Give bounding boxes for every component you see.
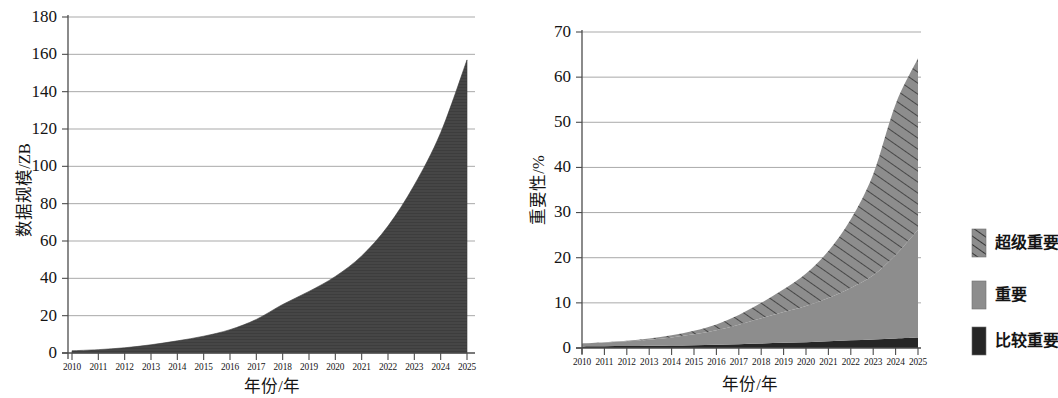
y-tick-label: 100 — [32, 156, 58, 175]
x-tick-label: 2015 — [685, 357, 704, 367]
x-tick-label: 2017 — [730, 357, 749, 367]
chart-panel-data-scale: 020406080100120140160180 201020112012201… — [0, 0, 500, 398]
area-series-group — [72, 60, 467, 353]
x-tick-label: 2013 — [640, 357, 659, 367]
y-tick-label: 30 — [554, 202, 571, 221]
stacked-area-series-group — [582, 58, 918, 348]
x-tick-label: 2024 — [432, 362, 451, 372]
x-tick-label: 2012 — [618, 357, 637, 367]
x-tick-label: 2013 — [142, 362, 161, 372]
y-tick-label: 50 — [554, 112, 571, 131]
legend-swatch-fairly-important — [972, 327, 986, 355]
x-tick-label: 2015 — [195, 362, 214, 372]
legend-label: 比较重要 — [995, 331, 1058, 349]
y-tick-labels-group: 010203040506070 — [554, 22, 571, 357]
x-axis-title: 年份/年 — [722, 375, 778, 394]
figure-root: 020406080100120140160180 201020112012201… — [0, 0, 1058, 398]
x-tick-label: 2014 — [168, 362, 187, 372]
x-tick-label: 2012 — [116, 362, 135, 372]
x-tick-label: 2017 — [247, 362, 266, 372]
y-tick-label: 40 — [554, 157, 571, 176]
legend-label: 超级重要 — [994, 233, 1058, 251]
x-tick-label: 2025 — [458, 362, 477, 372]
legend-label: 重要 — [995, 285, 1027, 303]
y-tick-label: 140 — [32, 82, 58, 101]
x-tick-label: 2014 — [662, 357, 681, 367]
y-tick-label: 180 — [32, 7, 58, 26]
y-tick-label: 70 — [554, 22, 571, 41]
x-tick-label: 2021 — [353, 362, 372, 372]
x-tick-label: 2022 — [379, 362, 398, 372]
x-tick-label: 2020 — [797, 357, 816, 367]
x-tick-label: 2025 — [909, 357, 928, 367]
y-tick-label: 60 — [40, 231, 57, 250]
y-tick-label: 60 — [554, 67, 571, 86]
y-tick-label: 0 — [563, 338, 572, 357]
x-tick-labels-group: 2010201120122013201420152016201720182019… — [573, 357, 928, 367]
x-tick-label: 2018 — [752, 357, 771, 367]
x-tick-label: 2016 — [707, 357, 726, 367]
x-tick-label: 2011 — [89, 362, 107, 372]
x-axis-title: 年份/年 — [244, 377, 300, 396]
y-tick-label: 40 — [40, 268, 57, 287]
y-tick-label: 80 — [40, 194, 57, 213]
x-tick-label: 2021 — [819, 357, 838, 367]
x-tick-label: 2011 — [595, 357, 613, 367]
legend-swatch-super-important — [972, 229, 986, 257]
y-axis-title: 重要性/% — [529, 155, 548, 225]
area-fill-data-scale — [72, 60, 467, 353]
x-tick-label: 2023 — [405, 362, 424, 372]
y-tick-label: 20 — [40, 306, 57, 325]
x-tick-label: 2020 — [326, 362, 345, 372]
x-tick-label: 2023 — [864, 357, 883, 367]
x-tick-label: 2019 — [774, 357, 793, 367]
y-tick-label: 120 — [32, 119, 58, 138]
x-tick-label: 2010 — [63, 362, 82, 372]
legend: 超级重要重要比较重要 — [972, 229, 1058, 355]
x-tick-label: 2022 — [842, 357, 861, 367]
y-axis-title: 数据规模/ZB — [15, 143, 34, 237]
x-tick-labels-group: 2010201120122013201420152016201720182019… — [63, 362, 477, 372]
x-tick-label: 2010 — [573, 357, 592, 367]
x-tick-label: 2024 — [886, 357, 905, 367]
chart-panel-importance: 010203040506070 201020112012201320142015… — [500, 0, 1058, 398]
importance-svg: 010203040506070 201020112012201320142015… — [500, 0, 1058, 398]
y-tick-label: 160 — [32, 44, 58, 63]
x-tick-label: 2018 — [274, 362, 293, 372]
y-tick-label: 20 — [554, 248, 571, 267]
legend-swatch-important — [972, 281, 986, 309]
x-tick-label: 2016 — [221, 362, 240, 372]
y-tick-label: 10 — [554, 293, 571, 312]
data-scale-svg: 020406080100120140160180 201020112012201… — [0, 0, 500, 398]
y-tick-label: 0 — [49, 343, 58, 362]
y-tick-labels-group: 020406080100120140160180 — [32, 7, 58, 362]
x-tick-label: 2019 — [300, 362, 319, 372]
